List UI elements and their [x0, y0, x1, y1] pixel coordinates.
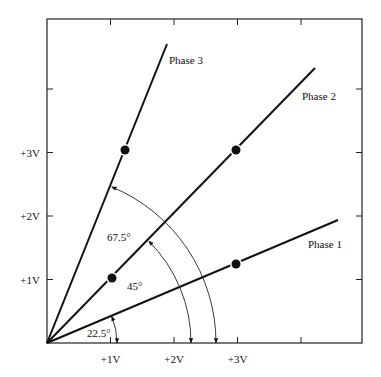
x-tick-label: +2V: [164, 353, 184, 365]
phase-diagram: +1V+2V+3V+1V+2V+3V 22.5°45°67.5° Phase 1…: [0, 0, 381, 377]
y-tick-label: +1V: [20, 274, 40, 286]
phase-3-dot: [121, 146, 130, 155]
y-tick-label: +2V: [20, 210, 40, 222]
angle-label: 45°: [127, 280, 142, 292]
angle-label: 22.5°: [87, 327, 111, 339]
vector-dot: [108, 274, 117, 283]
phase-3-vector: [47, 44, 167, 343]
x-tick-label: +1V: [101, 353, 121, 365]
angle-arc: [112, 316, 117, 343]
axis-labels: +1V+2V+3V+1V+2V+3V: [20, 147, 247, 366]
phase-2-vector: [47, 68, 315, 343]
phase-2-dot: [232, 146, 241, 155]
phase-3-label: Phase 3: [169, 54, 203, 66]
phase-1-label: Phase 1: [308, 238, 342, 250]
angle-arc: [112, 187, 216, 343]
phase-1-vector: [47, 220, 338, 343]
phase-vectors: Phase 1Phase 2Phase 3: [47, 44, 342, 343]
phase-1-dot: [232, 260, 241, 269]
x-tick-label: +3V: [228, 353, 248, 365]
phase-2-label: Phase 2: [302, 90, 336, 102]
angle-label: 67.5°: [107, 231, 131, 243]
angle-arcs: 22.5°45°67.5°: [87, 187, 216, 343]
y-tick-label: +3V: [20, 147, 40, 159]
